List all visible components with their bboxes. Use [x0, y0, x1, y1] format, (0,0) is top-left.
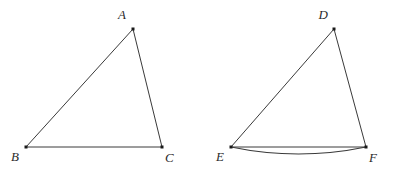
vertex-dot-b	[25, 146, 28, 149]
vertex-label-e: E	[215, 149, 224, 164]
vertex-dot-c	[161, 146, 164, 149]
vertex-label-a: A	[117, 7, 126, 22]
vertex-label-d: D	[318, 7, 329, 22]
vertex-dot-f	[365, 146, 368, 149]
vertex-label-b: B	[11, 149, 19, 164]
vertex-dot-a	[132, 28, 135, 31]
geometry-figure: A B C D E F	[0, 0, 393, 171]
figure-canvas: A B C D E F	[0, 0, 393, 171]
vertex-dot-e	[230, 146, 233, 149]
vertex-label-f: F	[368, 150, 378, 165]
vertex-label-c: C	[165, 150, 174, 165]
figure-background	[0, 0, 393, 171]
vertex-dot-d	[333, 28, 336, 31]
